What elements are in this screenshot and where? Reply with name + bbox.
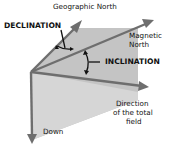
direction-label-line2: of the total bbox=[113, 109, 153, 117]
geographic-north-label: Geographic North bbox=[53, 3, 117, 11]
inclination-label: INCLINATION bbox=[105, 58, 160, 66]
geomagnetic-field-diagram: Geographic North DECLINATION Magnetic No… bbox=[0, 0, 172, 147]
down-arrow bbox=[31, 72, 32, 136]
down-arrowhead bbox=[27, 134, 37, 144]
direction-label-line1: Direction bbox=[116, 100, 148, 108]
total-field-arrowhead bbox=[138, 81, 149, 91]
direction-label-line3: field bbox=[126, 118, 142, 126]
magnetic-north-label-line2: North bbox=[129, 41, 149, 49]
declination-label: DECLINATION bbox=[4, 22, 61, 30]
down-label: Down bbox=[43, 128, 63, 136]
magnetic-north-label-line1: Magnetic bbox=[129, 32, 162, 40]
